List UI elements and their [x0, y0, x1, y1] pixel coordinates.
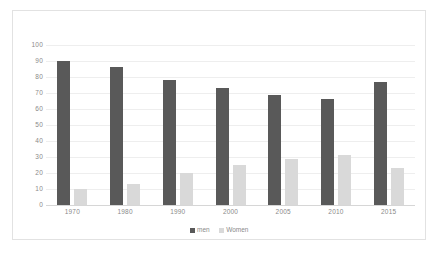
bar-group [46, 45, 99, 205]
bar-men-1990[interactable] [163, 80, 176, 205]
y-axis-tick-label: 0 [17, 202, 43, 209]
legend-item-men[interactable]: men [190, 227, 210, 234]
bar-group [151, 45, 204, 205]
y-axis-tick-label: 40 [17, 138, 43, 145]
bar-women-1970[interactable] [74, 189, 87, 205]
y-axis-tick-label: 20 [17, 170, 43, 177]
bar-group [204, 45, 257, 205]
x-axis-tick-label: 2015 [362, 209, 415, 223]
bar-women-2005[interactable] [285, 159, 298, 205]
legend-label: men [197, 227, 210, 234]
chart-plot-wrapper: 0102030405060708090100 19701980199020002… [13, 11, 425, 239]
bar-women-2015[interactable] [391, 168, 404, 205]
plot-area [46, 45, 415, 206]
bar-men-2000[interactable] [216, 88, 229, 205]
y-axis-tick-label: 30 [17, 154, 43, 161]
y-axis-tick-label: 90 [17, 58, 43, 65]
legend-label: Women [226, 227, 248, 234]
legend-swatch-icon [219, 228, 224, 233]
bar-women-1990[interactable] [180, 173, 193, 205]
chart-container: 0102030405060708090100 19701980199020002… [12, 10, 426, 240]
chart-legend: menWomen [13, 227, 425, 234]
x-axis: 1970198019902000200520102015 [46, 209, 415, 223]
bar-women-2010[interactable] [338, 155, 351, 205]
bar-group [257, 45, 310, 205]
legend-swatch-icon [190, 228, 195, 233]
bar-men-1980[interactable] [110, 67, 123, 205]
bar-group [310, 45, 363, 205]
bar-women-2000[interactable] [233, 165, 246, 205]
bar-men-1970[interactable] [57, 61, 70, 205]
bar-women-1980[interactable] [127, 184, 140, 205]
y-axis-tick-label: 100 [17, 42, 43, 49]
bar-men-2015[interactable] [374, 82, 387, 205]
x-axis-tick-label: 2005 [257, 209, 310, 223]
y-axis-tick-label: 60 [17, 106, 43, 113]
bar-men-2005[interactable] [268, 95, 281, 205]
y-axis: 0102030405060708090100 [17, 45, 43, 205]
bars-layer [46, 45, 415, 205]
y-axis-tick-label: 50 [17, 122, 43, 129]
x-axis-tick-label: 1970 [46, 209, 99, 223]
y-axis-tick-label: 10 [17, 186, 43, 193]
y-axis-tick-label: 80 [17, 74, 43, 81]
bar-group [362, 45, 415, 205]
x-axis-tick-label: 1990 [151, 209, 204, 223]
legend-item-women[interactable]: Women [219, 227, 249, 234]
y-axis-tick-label: 70 [17, 90, 43, 97]
x-axis-tick-label: 2000 [204, 209, 257, 223]
bar-men-2010[interactable] [321, 99, 334, 205]
x-axis-tick-label: 2010 [310, 209, 363, 223]
bar-group [99, 45, 152, 205]
x-axis-tick-label: 1980 [99, 209, 152, 223]
